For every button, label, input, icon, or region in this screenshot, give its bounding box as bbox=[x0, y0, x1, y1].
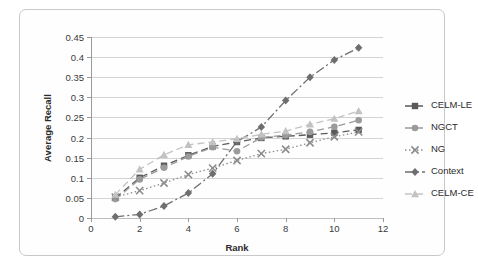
data-point-cross bbox=[233, 157, 240, 164]
y-axis-tick-label: 0.2 bbox=[71, 132, 84, 143]
plot-area: 00.050.10.150.20.250.30.350.40.450246810… bbox=[91, 37, 383, 218]
series-line-context bbox=[115, 48, 358, 217]
data-point-diamond bbox=[411, 168, 418, 176]
data-point-square bbox=[412, 103, 418, 109]
y-axis-tick-label: 0.3 bbox=[71, 92, 84, 103]
legend-item-celm-ce[interactable]: CELM-CE bbox=[404, 181, 478, 203]
x-axis-tick-label: 6 bbox=[234, 223, 239, 234]
x-axis-tick-label: 8 bbox=[283, 223, 288, 234]
y-axis-tick-label: 0.05 bbox=[66, 192, 85, 203]
x-axis-tick-label: 0 bbox=[88, 223, 93, 234]
data-point-diamond bbox=[160, 202, 167, 210]
y-axis-tick bbox=[87, 158, 91, 159]
legend-item-ng[interactable]: NG bbox=[404, 137, 478, 159]
data-point-circle bbox=[307, 129, 314, 136]
legend-label: Context bbox=[431, 165, 464, 176]
chart-legend: CELM-LENGCTNGContextCELM-CE bbox=[404, 93, 478, 203]
data-point-diamond bbox=[258, 123, 265, 131]
data-point-triangle bbox=[355, 107, 363, 114]
x-axis-tick-label: 10 bbox=[329, 223, 340, 234]
x-axis-tick bbox=[91, 218, 92, 222]
data-point-triangle bbox=[160, 151, 168, 158]
data-point-circle bbox=[331, 123, 338, 130]
y-axis-tick-label: 0.35 bbox=[66, 72, 85, 83]
x-axis-tick-label: 12 bbox=[378, 223, 389, 234]
legend-label: NGCT bbox=[431, 121, 458, 132]
legend-label: CELM-LE bbox=[431, 99, 472, 110]
x-axis-tick bbox=[237, 218, 238, 222]
x-axis-tick bbox=[140, 218, 141, 222]
legend-item-celm-le[interactable]: CELM-LE bbox=[404, 93, 478, 115]
data-point-circle bbox=[161, 164, 168, 171]
legend-marker-circle-icon bbox=[404, 120, 426, 132]
legend-marker-square-icon bbox=[404, 98, 426, 110]
y-axis-tick bbox=[87, 97, 91, 98]
y-axis-tick-label: 0.25 bbox=[66, 112, 85, 123]
x-axis-tick-label: 2 bbox=[137, 223, 142, 234]
y-axis-tick bbox=[87, 77, 91, 78]
legend-item-context[interactable]: Context bbox=[404, 159, 478, 181]
data-point-cross bbox=[282, 146, 289, 153]
data-point-circle bbox=[136, 176, 143, 183]
series-layer bbox=[91, 37, 383, 218]
data-point-cross bbox=[160, 179, 167, 186]
data-point-diamond bbox=[331, 56, 338, 64]
data-point-diamond bbox=[112, 213, 119, 221]
data-point-triangle bbox=[233, 135, 241, 142]
data-point-triangle bbox=[330, 115, 338, 122]
y-axis-tick bbox=[87, 178, 91, 179]
data-point-diamond bbox=[355, 44, 362, 52]
x-axis-tick-label: 4 bbox=[186, 223, 191, 234]
y-axis-tick-label: 0.45 bbox=[66, 32, 85, 43]
data-point-circle bbox=[234, 148, 241, 155]
y-axis-tick-label: 0 bbox=[79, 213, 84, 224]
legend-item-ngct[interactable]: NGCT bbox=[404, 115, 478, 137]
y-axis-title: Average Recall bbox=[42, 94, 53, 162]
data-point-triangle bbox=[209, 138, 217, 145]
chart-frame: Average Recall Rank 00.050.10.150.20.250… bbox=[19, 9, 445, 256]
y-axis-tick-label: 0.15 bbox=[66, 152, 85, 163]
y-axis-tick bbox=[87, 57, 91, 58]
y-axis-tick bbox=[87, 138, 91, 139]
y-axis-tick-label: 0.4 bbox=[71, 52, 84, 63]
legend-marker-triangle-icon bbox=[404, 186, 426, 198]
data-point-cross bbox=[185, 171, 192, 178]
y-axis-tick bbox=[87, 117, 91, 118]
y-axis-tick bbox=[87, 198, 91, 199]
legend-marker-cross-icon bbox=[404, 142, 426, 154]
legend-label: NG bbox=[431, 143, 445, 154]
x-axis-tick bbox=[383, 218, 384, 222]
x-axis-title: Rank bbox=[225, 242, 248, 253]
x-axis-tick bbox=[286, 218, 287, 222]
data-point-triangle bbox=[136, 165, 144, 172]
x-axis-tick bbox=[334, 218, 335, 222]
legend-marker-diamond-icon bbox=[404, 164, 426, 176]
y-axis-tick-label: 0.1 bbox=[71, 172, 84, 183]
data-point-triangle bbox=[306, 120, 314, 127]
data-point-circle bbox=[355, 117, 362, 124]
data-point-cross bbox=[258, 150, 265, 157]
data-point-circle bbox=[185, 153, 192, 160]
legend-label: CELM-CE bbox=[431, 187, 474, 198]
data-point-circle bbox=[412, 125, 419, 132]
y-axis-tick bbox=[87, 37, 91, 38]
data-point-cross bbox=[136, 187, 143, 194]
x-axis-tick bbox=[188, 218, 189, 222]
